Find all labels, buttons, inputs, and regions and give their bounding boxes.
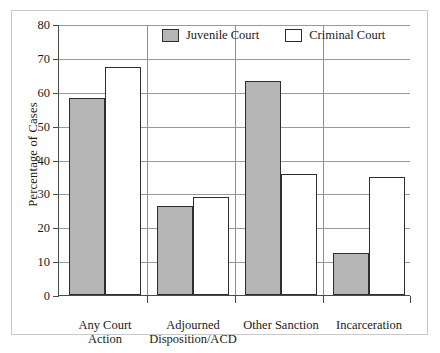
x-tick-mark-3 (323, 296, 324, 303)
bar-juvenile-adjourned-disposition (157, 206, 193, 295)
y-tick-label-20: 20 (38, 222, 51, 235)
bar-criminal-adjourned-disposition (193, 197, 229, 295)
x-label-other-sanction: Other Sanction (233, 318, 329, 332)
y-tick-label-0: 0 (44, 290, 50, 303)
group-separator-1 (147, 25, 148, 295)
y-tick-label-50: 50 (38, 120, 51, 133)
tick-mark-10 (53, 262, 59, 263)
x-tick-mark-2 (235, 296, 236, 303)
legend-item-juvenile-court: Juvenile Court (162, 28, 259, 43)
bar-criminal-any-court-action (105, 67, 141, 295)
tick-mark-80 (53, 25, 59, 26)
plot-area: 80 70 60 50 40 30 20 10 0 Any Court Acti… (58, 25, 410, 296)
tick-mark-70 (53, 59, 59, 60)
bar-juvenile-incarceration (333, 253, 369, 295)
tick-mark-40 (53, 161, 59, 162)
tick-mark-0 (53, 296, 59, 297)
x-label-any-court-action: Any Court Action (57, 318, 153, 346)
y-tick-label-10: 10 (38, 256, 51, 269)
group-separator-2 (235, 25, 236, 295)
bar-juvenile-other-sanction (245, 81, 281, 295)
bar-juvenile-any-court-action (69, 98, 105, 295)
bar-criminal-other-sanction (281, 174, 317, 296)
y-tick-label-80: 80 (38, 19, 51, 32)
group-separator-3 (323, 25, 324, 295)
bar-criminal-incarceration (369, 177, 405, 295)
x-label-adjourned-disposition: Adjourned Disposition/ACD (145, 318, 241, 346)
tick-mark-30 (53, 194, 59, 195)
chart-figure: Percentage of Cases 80 70 60 50 40 30 20… (11, 10, 428, 335)
legend-label-criminal-court: Criminal Court (309, 28, 385, 43)
y-tick-label-30: 30 (38, 188, 51, 201)
legend-swatch-icon-criminal (285, 29, 302, 42)
y-tick-label-70: 70 (38, 53, 51, 66)
y-tick-label-60: 60 (38, 87, 51, 100)
legend-label-juvenile-court: Juvenile Court (186, 28, 259, 43)
x-label-incarceration: Incarceration (321, 318, 417, 332)
legend-swatch-icon-juvenile (162, 29, 179, 42)
y-tick-label-40: 40 (38, 154, 51, 167)
chart-legend: Juvenile Court Criminal Court (162, 28, 385, 43)
tick-mark-60 (53, 93, 59, 94)
x-tick-mark-1 (147, 296, 148, 303)
legend-item-criminal-court: Criminal Court (285, 28, 385, 43)
tick-mark-20 (53, 228, 59, 229)
tick-mark-50 (53, 127, 59, 128)
x-tick-mark-4 (410, 296, 411, 303)
